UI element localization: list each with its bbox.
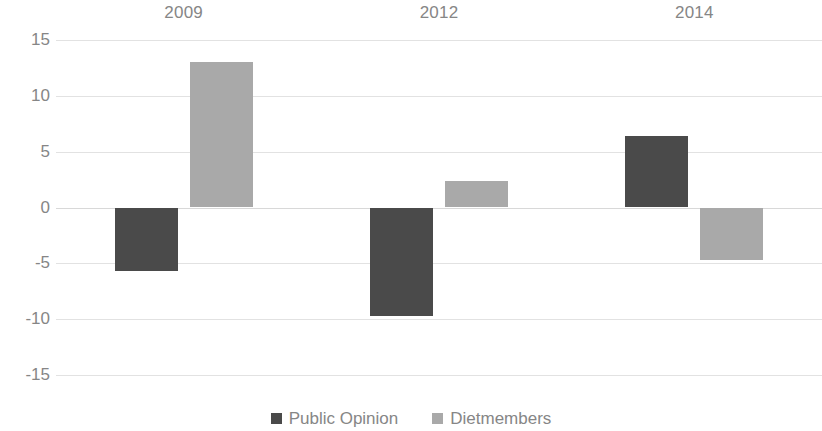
category-label-2012: 2012 <box>420 3 459 23</box>
gridline-neg10 <box>56 319 822 320</box>
bar-public-opinion-2009 <box>115 208 178 272</box>
category-label-2014: 2014 <box>675 3 714 23</box>
legend-swatch-icon <box>432 413 443 424</box>
legend-item-dietmembers[interactable]: Dietmembers <box>432 409 551 429</box>
y-axis-tick-label: -5 <box>35 253 50 273</box>
legend: Public OpinionDietmembers <box>0 406 822 431</box>
category-label-2009: 2009 <box>164 3 203 23</box>
y-axis-tick-label: 5 <box>41 142 50 162</box>
y-axis-tick-label: 10 <box>31 86 50 106</box>
y-axis-labels: 151050-5-10-15 <box>0 0 50 431</box>
gridline-neg15 <box>56 375 822 376</box>
gridline-15 <box>56 40 822 41</box>
category-axis-labels: 200920122014 <box>56 0 822 28</box>
y-axis-tick-label: -10 <box>25 309 50 329</box>
bar-dietmembers-2014 <box>700 208 763 260</box>
bar-public-opinion-2014 <box>625 136 688 207</box>
legend-item-public-opinion[interactable]: Public Opinion <box>271 409 399 429</box>
legend-label: Public Opinion <box>289 409 399 429</box>
legend-label: Dietmembers <box>450 409 551 429</box>
bar-dietmembers-2009 <box>190 62 253 207</box>
gridline-5 <box>56 152 822 153</box>
gridline-10 <box>56 96 822 97</box>
bar-public-opinion-2012 <box>370 208 433 316</box>
y-axis-tick-label: 0 <box>41 198 50 218</box>
y-axis-tick-label: -15 <box>25 365 50 385</box>
legend-swatch-icon <box>271 413 282 424</box>
bar-dietmembers-2012 <box>445 181 508 208</box>
bar-chart: 151050-5-10-15 200920122014 Public Opini… <box>0 0 822 431</box>
plot-area <box>56 40 822 375</box>
y-axis-tick-label: 15 <box>31 30 50 50</box>
